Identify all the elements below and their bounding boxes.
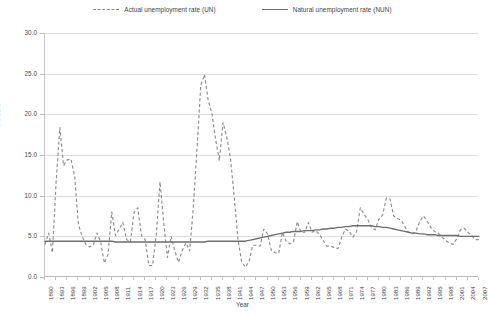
dashed-line-swatch [93,9,119,10]
x-tick-mark [356,277,357,280]
x-tick-label: 1914 [136,286,143,300]
x-tick-label: 2001 [458,286,465,300]
x-tick-label: 1971 [347,286,354,300]
x-tick-mark [122,277,123,280]
x-tick-label: 1989 [414,286,421,300]
x-tick-mark [255,277,256,280]
x-tick-mark [278,277,279,280]
x-tick-label: 1962 [314,286,321,300]
x-tick-label: 1941 [236,286,243,300]
plot-area [44,33,478,277]
x-tick-label: 1980 [380,286,387,300]
legend-item-nun: Natural unemployment rate (NUN) [262,6,392,13]
legend-label-nun: Natural unemployment rate (NUN) [293,6,392,13]
x-tick-label: 1959 [303,286,310,300]
x-tick-mark [344,277,345,280]
x-tick-mark [222,277,223,280]
x-tick-label: 1890 [47,286,54,300]
x-tick-label: 1935 [214,286,221,300]
x-tick-label: 1947 [258,286,265,300]
x-tick-mark [178,277,179,280]
x-tick-label: 1992 [425,286,432,300]
x-tick-mark [422,277,423,280]
y-tick-label: 25.0 [0,70,37,77]
x-tick-mark [400,277,401,280]
x-tick-mark [267,277,268,280]
x-tick-label: 1899 [80,286,87,300]
x-tick-mark [155,277,156,280]
x-tick-mark [289,277,290,280]
x-tick-mark [133,277,134,280]
x-tick-mark [89,277,90,280]
x-tick-label: 1995 [436,286,443,300]
x-tick-label: 1968 [336,286,343,300]
x-tick-label: 1944 [247,286,254,300]
chart-legend: Actual unemployment rate (UN) Natural un… [0,6,485,13]
x-tick-mark [244,277,245,280]
x-tick-mark [367,277,368,280]
solid-line-swatch [262,9,288,10]
legend-label-un: Actual unemployment rate (UN) [124,6,215,13]
x-tick-label: 1896 [69,286,76,300]
x-tick-label: 1953 [280,286,287,300]
y-tick-label: 10.0 [0,192,37,199]
x-tick-mark [456,277,457,280]
series-canvas [45,33,479,277]
x-tick-label: 1932 [202,286,209,300]
y-tick-label: 15.0 [0,151,37,158]
x-tick-mark [378,277,379,280]
x-tick-mark [411,277,412,280]
x-tick-label: 1983 [392,286,399,300]
x-tick-mark [433,277,434,280]
x-tick-label: 1902 [91,286,98,300]
x-tick-mark [211,277,212,280]
x-tick-mark [389,277,390,280]
x-tick-label: 1893 [58,286,65,300]
x-tick-label: 1956 [291,286,298,300]
x-tick-label: 1998 [447,286,454,300]
x-tick-label: 1977 [369,286,376,300]
x-tick-label: 1911 [124,287,131,300]
x-tick-label: 2004 [469,286,476,300]
x-tick-mark [189,277,190,280]
x-tick-label: 1908 [113,286,120,300]
y-tick-label: 20.0 [0,110,37,117]
x-tick-mark [445,277,446,280]
x-tick-label: 1905 [102,286,109,300]
x-tick-mark [55,277,56,280]
x-tick-mark [467,277,468,280]
x-tick-mark [233,277,234,280]
x-tick-label: 1974 [358,286,365,300]
x-tick-mark [100,277,101,280]
x-tick-label: 1920 [158,286,165,300]
x-tick-label: 1986 [403,286,410,300]
x-tick-label: 1950 [269,286,276,300]
x-tick-label: 1938 [225,286,232,300]
x-axis-title: Year [0,301,485,308]
legend-item-un: Actual unemployment rate (UN) [93,6,215,13]
x-tick-mark [322,277,323,280]
series-line-actual-unemployment [45,74,479,267]
y-tick-label: 5.0 [0,232,37,239]
x-tick-label: 1965 [325,286,332,300]
x-tick-mark [311,277,312,280]
y-tick-label: 30.0 [0,29,37,36]
x-tick-mark [144,277,145,280]
x-tick-mark [200,277,201,280]
x-tick-label: 1926 [180,286,187,300]
y-tick-label: 0.0 [0,273,37,280]
x-tick-label: 1929 [191,286,198,300]
x-tick-label: 1923 [169,286,176,300]
x-tick-mark [478,277,479,280]
x-tick-mark [111,277,112,280]
x-tick-mark [300,277,301,280]
x-tick-mark [44,277,45,280]
x-tick-mark [77,277,78,280]
x-tick-mark [333,277,334,280]
x-tick-label: 2007 [481,286,488,300]
x-tick-mark [66,277,67,280]
x-tick-label: 1917 [147,286,154,300]
x-tick-mark [166,277,167,280]
